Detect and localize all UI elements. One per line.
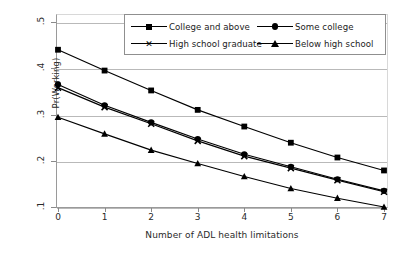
x-tick-label: 3: [189, 212, 207, 222]
y-tick-label: .5: [36, 10, 46, 32]
cross-marker-icon: ✕: [129, 38, 169, 50]
y-tick-label: .4: [36, 56, 46, 78]
legend-entry-college-and-above[interactable]: College and above: [129, 21, 255, 33]
y-tick-label: .2: [36, 149, 46, 171]
x-tick-label: 1: [96, 212, 114, 222]
x-tick-label: 5: [282, 212, 300, 222]
y-tick-mark: [51, 22, 56, 23]
legend-row: College and above Some college: [129, 18, 381, 35]
y-tick-mark: [51, 207, 56, 208]
square-marker-icon: [129, 21, 169, 33]
y-tick-label: .1: [36, 195, 46, 217]
y-axis-title: Pr(Working): [51, 23, 61, 143]
legend-entry-some-college[interactable]: Some college: [255, 21, 381, 33]
legend-entry-below-high-school[interactable]: Below high school: [255, 38, 381, 50]
x-tick-label: 7: [375, 212, 393, 222]
legend-row: ✕ High school graduate Below high school: [129, 35, 381, 52]
legend-entry-high-school-graduate[interactable]: ✕ High school graduate: [129, 38, 255, 50]
chart-legend: College and above Some college ✕ High sc…: [124, 14, 386, 55]
chart-figure: Pr(Working) .5.4.3.2.1 01234567 Number o…: [0, 0, 411, 259]
legend-label: High school graduate: [169, 39, 262, 49]
y-tick-mark: [51, 115, 56, 116]
legend-label: Below high school: [295, 39, 373, 49]
x-tick-label: 2: [142, 212, 160, 222]
x-axis-title: Number of ADL health limitations: [56, 230, 388, 240]
x-tick-label: 0: [49, 212, 67, 222]
gridline: [57, 116, 387, 117]
legend-label: College and above: [169, 22, 250, 32]
circle-marker-icon: [255, 21, 295, 33]
y-tick-label: .3: [36, 103, 46, 125]
triangle-marker-icon: [255, 38, 295, 50]
y-tick-mark: [51, 161, 56, 162]
x-tick-label: 4: [235, 212, 253, 222]
gridline: [57, 69, 387, 70]
x-tick-label: 6: [328, 212, 346, 222]
gridline: [57, 162, 387, 163]
legend-label: Some college: [295, 22, 354, 32]
y-tick-mark: [51, 68, 56, 69]
